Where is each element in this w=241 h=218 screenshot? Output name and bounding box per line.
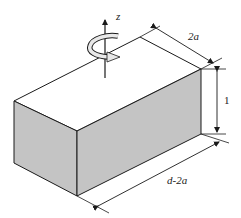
length-label: d-2a [167, 174, 188, 186]
z-axis-label: z [115, 10, 121, 22]
height-label: 1 [224, 94, 230, 106]
block-diagram: z 2a 1 d-2a [0, 0, 241, 218]
height-dimension: 1 [201, 69, 230, 134]
width-label: 2a [188, 30, 200, 42]
